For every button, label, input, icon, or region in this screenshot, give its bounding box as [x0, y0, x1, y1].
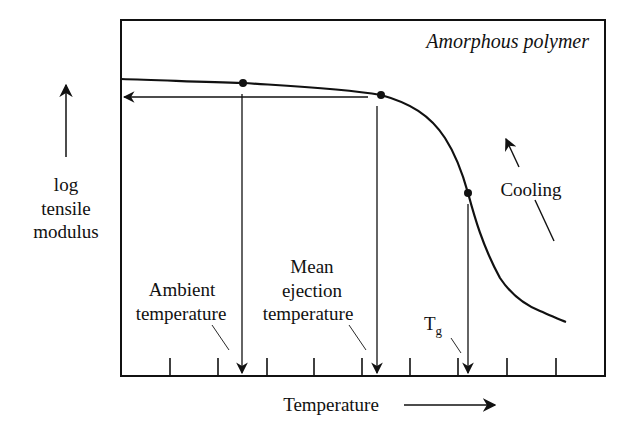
ambient-temperature-point	[239, 79, 247, 87]
ambient-label-line1: Ambient	[149, 279, 216, 300]
ambient-leader-line	[212, 325, 229, 350]
y-axis-label-line1: log	[54, 174, 79, 195]
tg-leader-line	[451, 338, 461, 353]
mean-ejection-temperature-point	[377, 91, 385, 99]
ambient-label-line2: temperature	[136, 303, 227, 324]
cooling-arrow-head	[506, 139, 519, 167]
y-axis-label-line3: modulus	[33, 221, 98, 242]
cooling-arrow-tail	[535, 200, 554, 241]
cooling-label: Cooling	[500, 179, 562, 200]
y-axis-label-line2: tensile	[41, 198, 91, 219]
ejection-label-line1: Mean	[290, 256, 334, 277]
x-axis-ticks	[170, 358, 556, 376]
ejection-label-line2: ejection	[282, 280, 343, 301]
ejection-leader-line	[349, 325, 366, 350]
modulus-temperature-diagram: Amorphous polymer Ambient temperature Me…	[0, 0, 635, 433]
glass-transition-point	[464, 189, 472, 197]
x-axis-label: Temperature	[283, 394, 379, 415]
diagram-title: Amorphous polymer	[424, 30, 589, 53]
ejection-label-line3: temperature	[263, 303, 354, 324]
tg-label: Tg	[424, 313, 443, 338]
